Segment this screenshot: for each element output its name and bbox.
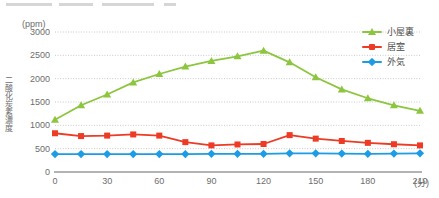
data-point	[208, 142, 214, 148]
legend-label: 小屋裏	[387, 25, 414, 38]
data-point	[207, 150, 215, 158]
data-point	[417, 142, 423, 148]
data-point	[130, 131, 136, 137]
data-point	[390, 149, 398, 157]
data-point	[51, 116, 59, 123]
legend-label: 居室	[387, 40, 405, 53]
data-point	[235, 141, 241, 147]
data-point	[364, 150, 372, 158]
data-point	[260, 47, 268, 54]
legend-item-1[interactable]: 小屋裏	[362, 24, 414, 39]
legend-item-2[interactable]: 居室	[362, 39, 414, 54]
data-point	[155, 150, 163, 158]
data-point	[182, 139, 188, 145]
series-居室	[52, 130, 423, 148]
data-point	[103, 150, 111, 158]
data-point	[51, 150, 59, 158]
legend-item-3[interactable]: 外気	[362, 54, 414, 69]
data-point	[287, 132, 293, 138]
data-point	[181, 150, 189, 158]
data-point	[261, 141, 267, 147]
data-point	[104, 133, 110, 139]
data-point	[312, 149, 320, 157]
data-point	[339, 138, 345, 144]
chart-legend: 小屋裏居室外気	[362, 24, 414, 69]
data-point	[365, 140, 371, 146]
co2-concentration-chart: (ppm) 二酸化炭素濃度 050010001500200025003000 0…	[0, 0, 439, 198]
data-point	[313, 136, 319, 142]
data-point	[129, 150, 137, 158]
data-point	[52, 130, 58, 136]
legend-marker-icon	[362, 27, 382, 37]
data-point	[233, 150, 241, 158]
data-point	[338, 149, 346, 157]
data-point	[286, 149, 294, 157]
legend-label: 外気	[387, 55, 405, 68]
data-point	[416, 149, 424, 157]
legend-marker-icon	[362, 42, 382, 52]
data-point	[391, 141, 397, 147]
data-point	[77, 150, 85, 158]
legend-marker-icon	[362, 57, 382, 67]
data-point	[78, 133, 84, 139]
data-point	[259, 150, 267, 158]
data-point	[156, 133, 162, 139]
series-外気	[51, 149, 424, 158]
data-point	[312, 73, 320, 80]
